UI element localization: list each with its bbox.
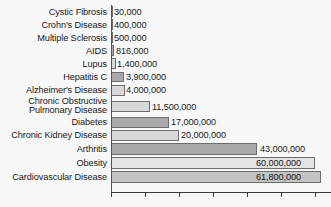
bar-row[interactable]: AIDS 816,000 <box>0 44 331 57</box>
bar-row[interactable]: Arthritis 43,000,000 <box>0 142 331 156</box>
x-axis-tick <box>111 192 112 197</box>
bar-row[interactable]: Crohn's Disease 400,000 <box>0 18 331 31</box>
bar-row[interactable]: Lupus 1,400,000 <box>0 57 331 70</box>
value-label: 60,000,000 <box>256 158 301 168</box>
category-label: Obesity <box>0 158 111 168</box>
category-label: Cystic Fibrosis <box>0 7 111 17</box>
x-axis-tick <box>247 192 248 197</box>
category-label: Multiple Sclerosis <box>0 33 111 43</box>
x-axis-tick <box>179 192 180 197</box>
category-label: Lupus <box>0 59 111 69</box>
x-axis-tick <box>213 192 214 197</box>
bar-row[interactable]: Alzheimer's Disease 4,000,000 <box>0 84 331 97</box>
category-label: Chronic Kidney Disease <box>0 130 111 140</box>
bar-cell: 400,000 <box>111 18 331 31</box>
value-label: 3,900,000 <box>126 72 166 82</box>
category-label: Hepatitis C <box>0 72 111 82</box>
value-label: 61,800,000 <box>256 172 301 182</box>
bar-rows: Cystic Fibrosis 30,000 Crohn's Disease 4… <box>0 5 331 184</box>
category-label: Crohn's Disease <box>0 20 111 30</box>
bar-cell: 61,800,000 <box>111 170 331 184</box>
bar-row[interactable]: Multiple Sclerosis 500,000 <box>0 31 331 44</box>
value-label: 20,000,000 <box>181 130 226 140</box>
x-axis-tick <box>145 192 146 197</box>
bar[interactable] <box>111 101 150 112</box>
bar-cell: 43,000,000 <box>111 142 331 156</box>
bar-row[interactable]: Cardiovascular Disease 61,800,000 <box>0 170 331 184</box>
bar-cell: 30,000 <box>111 5 331 18</box>
value-label: 43,000,000 <box>260 144 305 154</box>
bar-row[interactable]: Diabetes 17,000,000 <box>0 116 331 129</box>
bar[interactable] <box>111 117 169 128</box>
x-axis-tick <box>315 192 316 197</box>
bar-row[interactable]: Obesity 60,000,000 <box>0 156 331 170</box>
bar-cell: 1,400,000 <box>111 57 331 70</box>
bar-cell: 4,000,000 <box>111 84 331 97</box>
value-label: 816,000 <box>116 46 149 56</box>
category-label: Cardiovascular Disease <box>0 172 111 182</box>
bar-cell: 20,000,000 <box>111 129 331 142</box>
category-label: Diabetes <box>0 117 111 127</box>
category-label: Chronic Obstructive Pulmonary Disease <box>0 97 111 116</box>
y-axis-line <box>111 5 112 192</box>
category-label: Alzheimer's Disease <box>0 85 111 95</box>
bar[interactable] <box>111 130 179 141</box>
bar[interactable] <box>111 143 257 155</box>
category-label: Arthritis <box>0 144 111 154</box>
value-label: 11,500,000 <box>152 102 196 112</box>
category-label: AIDS <box>0 46 111 56</box>
bar-cell: 816,000 <box>111 44 331 57</box>
value-label: 30,000 <box>114 7 142 17</box>
value-label: 500,000 <box>114 33 147 43</box>
bar-cell: 17,000,000 <box>111 116 331 129</box>
bar-cell: 500,000 <box>111 31 331 44</box>
bar-row[interactable]: Cystic Fibrosis 30,000 <box>0 5 331 18</box>
bar-cell: 11,500,000 <box>111 97 331 116</box>
value-label: 17,000,000 <box>171 117 216 127</box>
bar-row[interactable]: Hepatitis C 3,900,000 <box>0 70 331 83</box>
value-label: 1,400,000 <box>117 59 157 69</box>
x-axis-line <box>111 192 331 193</box>
bar-cell: 3,900,000 <box>111 70 331 83</box>
value-label: 400,000 <box>114 20 147 30</box>
x-axis-tick <box>281 192 282 197</box>
bar-row[interactable]: Chronic Kidney Disease 20,000,000 <box>0 129 331 142</box>
bar-chart: Cystic Fibrosis 30,000 Crohn's Disease 4… <box>0 0 331 207</box>
bar-cell: 60,000,000 <box>111 156 331 170</box>
bar[interactable] <box>111 85 125 96</box>
bar-row[interactable]: Chronic Obstructive Pulmonary Disease 11… <box>0 97 331 116</box>
value-label: 4,000,000 <box>126 85 166 95</box>
bar[interactable] <box>111 72 124 83</box>
